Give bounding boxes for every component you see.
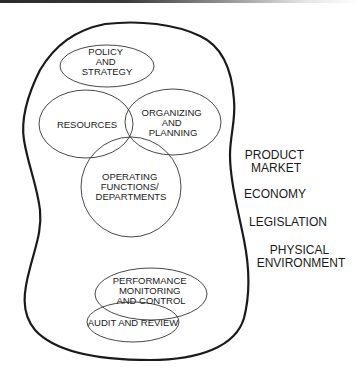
product-market-label: PRODUCT MARKET xyxy=(245,148,307,175)
resources-label: RESOURCES xyxy=(57,119,117,130)
economy-label: ECONOMY xyxy=(244,187,306,201)
organization-diagram: POLICY AND STRATEGY RESOURCES ORGANIZING… xyxy=(0,0,360,375)
physical-environment-label: PHYSICAL ENVIRONMENT xyxy=(257,243,346,270)
audit-label: AUDIT AND REVIEW xyxy=(88,317,179,328)
performance-label: PERFORMANCE MONITORING AND CONTROL xyxy=(113,275,190,306)
legislation-label: LEGISLATION xyxy=(249,215,327,229)
policy-label: POLICY AND STRATEGY xyxy=(82,46,133,77)
organizing-label: ORGANIZING AND PLANNING xyxy=(142,107,205,138)
operating-label: OPERATING FUNCTIONS/ DEPARTMENTS xyxy=(96,171,167,202)
